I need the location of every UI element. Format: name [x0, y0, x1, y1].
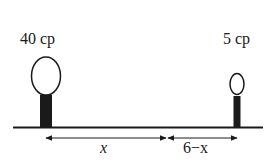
- small-lamp-icon: [230, 74, 244, 129]
- large-lamp-icon: [32, 57, 61, 128]
- photometry-diagram: 40 cp 5 cp x 6−x: [0, 0, 276, 163]
- distance-label-x: x: [99, 139, 107, 156]
- lamp-label-small: 5 cp: [223, 30, 250, 48]
- lamp-label-large: 40 cp: [20, 30, 55, 48]
- distance-label-6-minus-x: 6−x: [183, 139, 208, 156]
